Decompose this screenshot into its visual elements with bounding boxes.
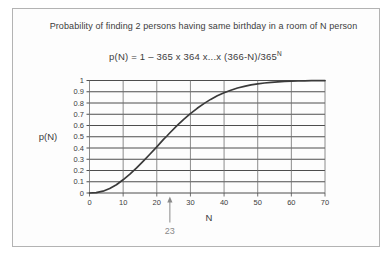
up-arrow-icon: [167, 197, 172, 203]
x-axis-label: N: [206, 212, 213, 223]
x-tick-label: 40: [220, 198, 228, 207]
x-tick-label: 70: [321, 198, 329, 207]
y-tick-label: 1: [80, 76, 84, 85]
y-tick-label: 0.8: [74, 99, 84, 108]
probability-chart: 00.10.20.30.40.50.60.70.80.9101020304050…: [0, 0, 391, 255]
x-tick-label: 60: [287, 198, 295, 207]
x-tick-label: 50: [254, 198, 262, 207]
x-tick-label: 30: [186, 198, 194, 207]
y-tick-label: 0.7: [74, 110, 84, 119]
y-tick-label: 0.6: [74, 121, 84, 130]
y-tick-label: 0.1: [74, 177, 84, 186]
y-tick-label: 0.2: [74, 166, 84, 175]
annotation-label: 23: [165, 226, 175, 236]
x-tick-label: 0: [87, 198, 91, 207]
y-tick-label: 0: [80, 189, 84, 198]
x-tick-label: 20: [153, 198, 161, 207]
x-tick-label: 10: [119, 198, 127, 207]
y-axis-label: p(N): [39, 131, 57, 142]
scanned-figure-page: Probability of finding 2 persons having …: [0, 0, 391, 255]
y-tick-label: 0.3: [74, 155, 84, 164]
y-tick-label: 0.5: [74, 132, 84, 141]
y-tick-label: 0.4: [74, 144, 84, 153]
y-tick-label: 0.9: [74, 87, 84, 96]
